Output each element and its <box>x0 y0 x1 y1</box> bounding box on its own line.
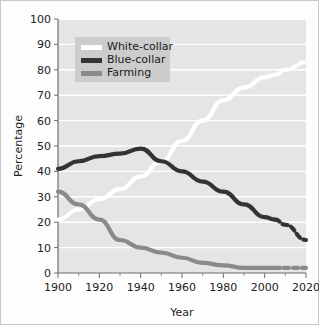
y-tick-label: 90 <box>37 38 51 51</box>
x-tick-label: 1900 <box>44 281 72 294</box>
chart-figure: 0102030405060708090100 19001920194019601… <box>0 0 319 325</box>
y-tick-label: 70 <box>37 89 51 102</box>
x-tick-label: 1940 <box>127 281 155 294</box>
y-tick-label: 30 <box>37 191 51 204</box>
x-tick-label: 2000 <box>251 281 279 294</box>
chart-legend: White-collarBlue-collarFarming <box>75 37 174 82</box>
y-tick-label: 20 <box>37 216 51 229</box>
x-tick-label: 2020 <box>292 281 319 294</box>
y-tick-label: 50 <box>37 140 51 153</box>
x-tick-marks <box>58 273 306 278</box>
x-tick-label: 1980 <box>209 281 237 294</box>
y-axis-title: Percentage <box>12 115 25 177</box>
legend-swatch <box>81 58 102 63</box>
y-tick-label: 0 <box>44 267 51 280</box>
legend-swatch <box>81 71 102 76</box>
y-tick-label: 10 <box>37 242 51 255</box>
legend-label: Farming <box>107 66 151 79</box>
x-tick-label: 1920 <box>85 281 113 294</box>
y-tick-label: 40 <box>37 165 51 178</box>
y-tick-label: 100 <box>30 13 51 26</box>
y-tick-label: 60 <box>37 115 51 128</box>
x-axis-title: Year <box>169 306 194 319</box>
legend-label: White-collar <box>107 40 174 53</box>
legend-label: Blue-collar <box>107 53 166 66</box>
x-tick-label: 1960 <box>168 281 196 294</box>
employment-line-chart: 0102030405060708090100 19001920194019601… <box>1 1 319 325</box>
legend-swatch <box>81 45 102 50</box>
y-tick-labels: 0102030405060708090100 <box>30 13 51 280</box>
x-tick-labels: 1900192019401960198020002020 <box>44 281 319 294</box>
y-tick-label: 80 <box>37 64 51 77</box>
